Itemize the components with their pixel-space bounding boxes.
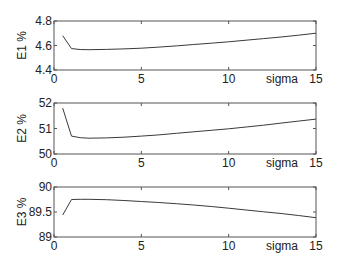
- x-tick-label: 15: [309, 239, 323, 253]
- y-tick-label: 50: [39, 147, 53, 161]
- y-tick-label: 52: [39, 96, 53, 110]
- x-tick-label: 5: [138, 239, 145, 253]
- x-tick-label: 5: [138, 72, 145, 86]
- y-axis-label: E1 %: [15, 31, 29, 60]
- axes-box: [54, 187, 316, 237]
- y-tick-label: 51: [39, 122, 53, 136]
- x-axis-label: sigma: [266, 239, 298, 253]
- x-axis-label: sigma: [266, 156, 298, 170]
- figure: 0510154.44.64.8E1 %sigma051015505152E2 %…: [0, 0, 341, 270]
- y-axis-label: E2 %: [15, 114, 29, 143]
- x-tick-label: 15: [309, 72, 323, 86]
- x-tick-label: 10: [222, 156, 236, 170]
- series-line-e2: [63, 108, 316, 138]
- y-tick-label: 89: [39, 230, 53, 244]
- x-tick-label: 10: [222, 239, 236, 253]
- subplot-e2: 051015505152E2 %sigma: [15, 96, 323, 170]
- series-line-e3: [63, 199, 316, 217]
- subplot-e3: 0510158989.590E3 %sigma: [15, 180, 323, 253]
- series-line-e1: [63, 33, 316, 50]
- y-tick-label: 4.8: [35, 14, 52, 28]
- y-tick-label: 89.5: [29, 205, 53, 219]
- y-axis-label: E3 %: [15, 197, 29, 226]
- y-tick-label: 90: [39, 180, 53, 194]
- x-tick-label: 5: [138, 156, 145, 170]
- axes-box: [54, 103, 316, 154]
- y-tick-label: 4.4: [35, 63, 52, 77]
- subplot-e1: 0510154.44.64.8E1 %sigma: [15, 14, 323, 86]
- x-tick-label: 10: [222, 72, 236, 86]
- x-axis-label: sigma: [266, 72, 298, 86]
- y-tick-label: 4.6: [35, 39, 52, 53]
- x-tick-label: 15: [309, 156, 323, 170]
